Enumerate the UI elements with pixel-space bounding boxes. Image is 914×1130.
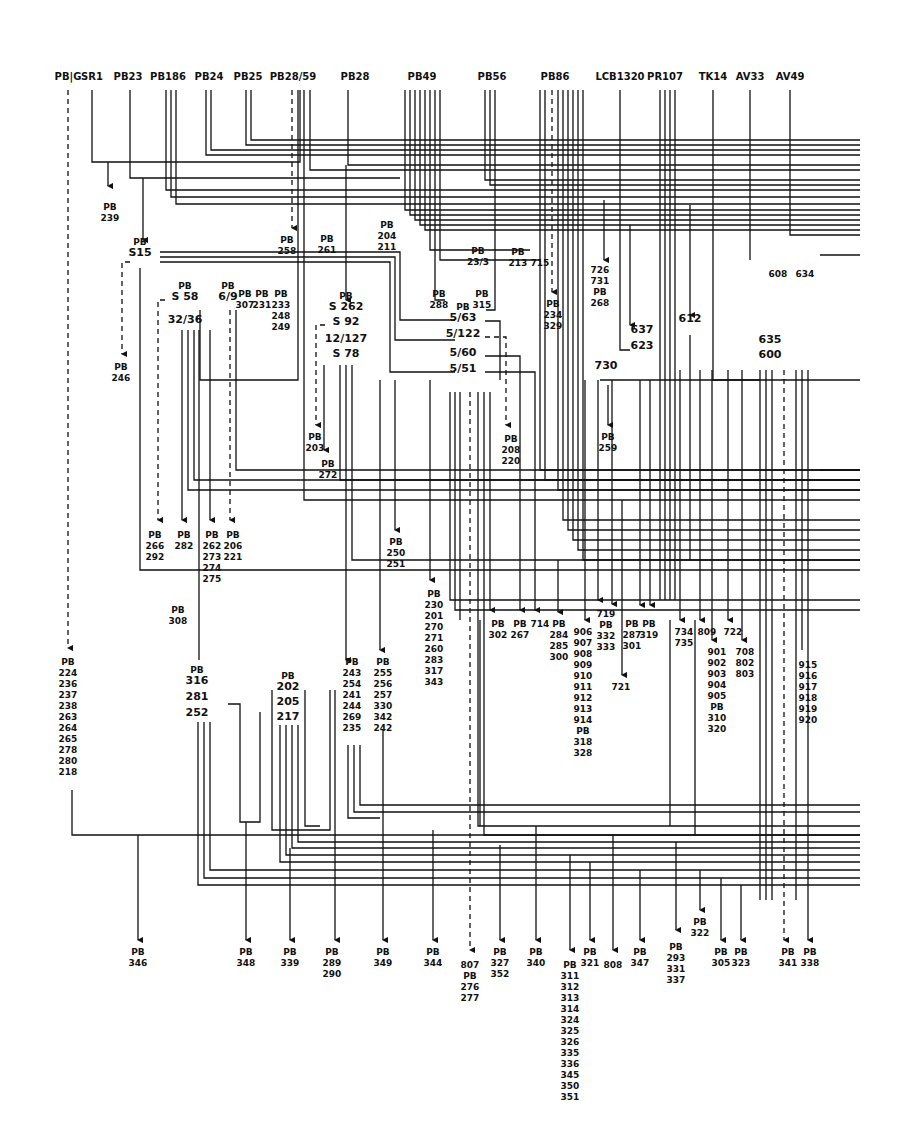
destination-label: 908: [574, 649, 593, 659]
junction-label: 316: [186, 674, 209, 687]
junction-label: S 58: [171, 290, 198, 303]
destination-label: 907: [574, 638, 593, 648]
destination-label: 237: [59, 690, 78, 700]
destination-label: 261: [318, 245, 337, 255]
destination-label: PB: [583, 947, 597, 957]
destination-label: 351: [561, 1092, 580, 1102]
destination-label: 278: [59, 745, 78, 755]
destination-label: 248: [272, 311, 291, 321]
destination-label: PB: [493, 947, 507, 957]
destination-label: 332: [597, 631, 616, 641]
destination-label: 913: [574, 704, 593, 714]
source-label: PB28/59: [270, 71, 316, 82]
source-label: TK14: [699, 71, 728, 82]
destination-label: PB: [563, 960, 577, 970]
destination-label: 726: [591, 265, 610, 275]
destination-label: 345: [561, 1070, 580, 1080]
destination-label: 904: [708, 680, 727, 690]
destination-label: 342: [374, 712, 393, 722]
destination-label: 314: [561, 1004, 580, 1014]
destination-label: PB: [504, 434, 518, 444]
destination-label: 300: [550, 652, 569, 662]
junction-label: 635: [759, 333, 782, 346]
destination-label: 259: [599, 443, 618, 453]
destination-label: 344: [424, 958, 443, 968]
junction-label: 5/63: [450, 311, 477, 324]
destination-label: 318: [574, 737, 593, 747]
destination-label: 254: [343, 679, 362, 689]
junction-label: 637: [631, 323, 654, 336]
destination-label: PB: [734, 947, 748, 957]
destination-label: 274: [203, 563, 222, 573]
destination-label: PB: [463, 971, 477, 981]
destination-label: 339: [281, 958, 300, 968]
destination-label: 284: [550, 630, 569, 640]
destination-label: PB: [238, 289, 252, 299]
destination-label: 287: [623, 630, 642, 640]
destination-label: 313: [561, 993, 580, 1003]
destination-label: 282: [175, 541, 194, 551]
destination-label: 349: [374, 958, 393, 968]
destination-label: 280: [59, 756, 78, 766]
destination-label: 283: [425, 655, 444, 665]
destination-label: 350: [561, 1081, 580, 1091]
junction-label: 32/36: [168, 313, 203, 326]
junction-label: 205: [277, 695, 300, 708]
destination-label: 326: [561, 1037, 580, 1047]
destination-label: 266: [146, 541, 165, 551]
source-label: LCB1320: [595, 71, 644, 82]
destination-label: PB: [669, 942, 683, 952]
junction-label: 217: [277, 710, 300, 723]
destination-label: PB: [471, 246, 485, 256]
source-label: PB24: [195, 71, 224, 82]
destination-label: 905: [708, 691, 727, 701]
destination-label: 338: [801, 958, 820, 968]
destination-label: 262: [203, 541, 222, 551]
junction-label: 202: [277, 680, 300, 693]
destination-label: 203: [306, 443, 325, 453]
destination-label: 722: [724, 627, 743, 637]
destination-label: PB: [693, 917, 707, 927]
destination-label: 265: [59, 734, 78, 744]
destination-label: 249: [272, 322, 291, 332]
destination-label: 337: [667, 975, 686, 985]
destination-label: 267: [511, 630, 530, 640]
destination-label: PB: [389, 537, 403, 547]
destination-label: PB: [274, 289, 288, 299]
destination-label: 352: [491, 969, 510, 979]
destination-label: 269: [343, 712, 362, 722]
destination-label: 260: [425, 644, 444, 654]
destination-label: PB: [511, 247, 525, 257]
destination-label: PB: [552, 619, 566, 629]
destination-label: 302: [489, 630, 508, 640]
destination-label: 323: [732, 958, 751, 968]
destination-label: 320: [708, 724, 727, 734]
junction-label: 612: [679, 312, 702, 325]
destination-label: 901: [708, 647, 727, 657]
source-label: PB|G: [55, 71, 82, 83]
destination-label: 218: [59, 767, 78, 777]
destination-label: 808: [604, 960, 623, 970]
destination-label: 234: [544, 310, 563, 320]
destination-label: 347: [631, 958, 650, 968]
destination-label: PB: [376, 947, 390, 957]
destination-label: 911: [574, 682, 593, 692]
destination-label: 721: [612, 682, 631, 692]
destination-label: 238: [59, 701, 78, 711]
destination-label: PB: [131, 947, 145, 957]
destination-label: 331: [667, 964, 686, 974]
destination-label: 307: [236, 300, 255, 310]
destination-label: 917: [799, 682, 818, 692]
junction-label: S 262: [329, 300, 364, 313]
destination-label: PB: [599, 620, 613, 630]
source-label: PR107: [647, 71, 683, 82]
destination-label: 608: [769, 269, 788, 279]
destination-label: 734: [675, 627, 694, 637]
destination-label: 802: [736, 658, 755, 668]
destination-label: PB: [325, 947, 339, 957]
destination-label: PB: [321, 459, 335, 469]
source-label: PB23: [114, 71, 143, 82]
destination-label: PB: [576, 726, 590, 736]
destination-label: 909: [574, 660, 593, 670]
destination-label: 336: [561, 1059, 580, 1069]
